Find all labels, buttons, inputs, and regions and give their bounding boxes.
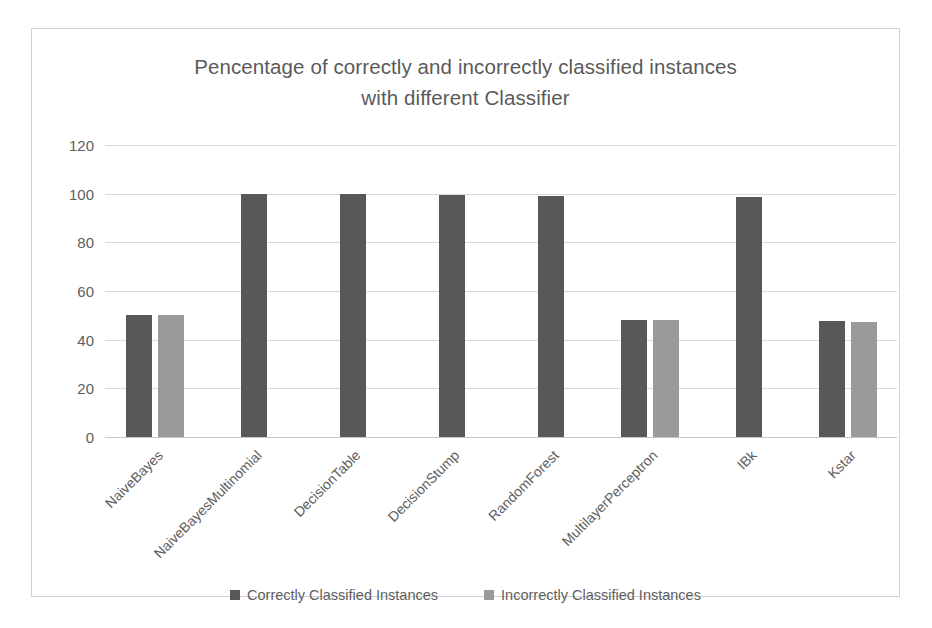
bar[interactable]: [158, 315, 184, 437]
legend-label: Correctly Classified Instances: [247, 587, 438, 603]
x-axis-tick-label: IBk: [734, 447, 760, 473]
x-axis-label-cell: MultilayerPerceptron: [600, 439, 699, 579]
x-axis-label-cell: Kstar: [798, 439, 897, 579]
chart-frame: Pencentage of correctly and incorrectly …: [31, 28, 900, 597]
y-axis-tick-label: 20: [77, 380, 94, 397]
bar[interactable]: [851, 322, 877, 437]
bar[interactable]: [819, 321, 845, 437]
bar-group: [798, 145, 897, 437]
plot-area: 020406080100120: [105, 145, 897, 437]
bar[interactable]: [621, 320, 647, 437]
bar[interactable]: [340, 194, 366, 437]
x-axis-label-cell: IBk: [699, 439, 798, 579]
y-axis-tick-label: 60: [77, 283, 94, 300]
bar[interactable]: [241, 194, 267, 437]
x-axis-label-cell: RandomForest: [501, 439, 600, 579]
legend-label: Incorrectly Classified Instances: [501, 587, 701, 603]
chart-title-line-2: with different Classifier: [32, 82, 899, 113]
x-axis-label-cell: DecisionStump: [402, 439, 501, 579]
y-axis-tick-label: 40: [77, 331, 94, 348]
bar[interactable]: [538, 196, 564, 437]
y-axis-tick-label: 80: [77, 234, 94, 251]
bar-group: [105, 145, 204, 437]
legend-item[interactable]: Correctly Classified Instances: [230, 587, 438, 603]
chart-legend: Correctly Classified InstancesIncorrectl…: [32, 587, 899, 603]
bars-layer: [105, 145, 897, 437]
bar[interactable]: [653, 320, 679, 437]
bar[interactable]: [439, 195, 465, 437]
bar[interactable]: [126, 315, 152, 437]
y-axis-tick-label: 100: [69, 185, 94, 202]
legend-item[interactable]: Incorrectly Classified Instances: [484, 587, 701, 603]
gridline: [105, 437, 897, 438]
x-axis-label-cell: NaiveBayes: [105, 439, 204, 579]
x-axis-label-cell: NaiveBayesMultinomial: [204, 439, 303, 579]
x-axis-label-cell: DecisionTable: [303, 439, 402, 579]
x-axis-tick-labels: NaiveBayesNaiveBayesMultinomialDecisionT…: [105, 439, 897, 579]
x-axis-tick-label: Kstar: [824, 447, 858, 481]
legend-swatch-icon: [230, 590, 240, 600]
bar-group: [699, 145, 798, 437]
bar-group: [303, 145, 402, 437]
chart-title: Pencentage of correctly and incorrectly …: [32, 51, 899, 113]
y-axis-tick-label: 0: [86, 429, 94, 446]
x-axis-tick-label: NaiveBayes: [102, 447, 166, 511]
bar-group: [204, 145, 303, 437]
legend-swatch-icon: [484, 590, 494, 600]
bar[interactable]: [736, 197, 762, 437]
chart-title-line-1: Pencentage of correctly and incorrectly …: [32, 51, 899, 82]
y-axis-tick-label: 120: [69, 137, 94, 154]
bar-group: [600, 145, 699, 437]
bar-group: [402, 145, 501, 437]
bar-group: [501, 145, 600, 437]
